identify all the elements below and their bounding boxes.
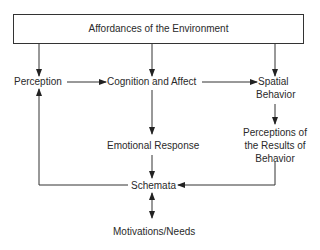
- node-spatial-line1: Spatial: [258, 76, 289, 88]
- arrow-schemata-perception: [39, 89, 128, 185]
- node-results-line2: the Results of: [240, 140, 310, 152]
- node-results-line3: Behavior: [240, 153, 310, 165]
- node-spatial-line2: Behavior: [256, 89, 295, 101]
- node-perception: Perception: [14, 76, 62, 88]
- node-emotional: Emotional Response: [107, 140, 199, 152]
- arrow-results-schemata: [178, 162, 275, 185]
- node-results-line1: Perceptions of: [240, 127, 310, 139]
- node-motivations: Motivations/Needs: [113, 226, 195, 238]
- affordances-box: Affordances of the Environment: [13, 14, 304, 44]
- affordances-label: Affordances of the Environment: [14, 15, 303, 43]
- node-schemata: Schemata: [131, 180, 176, 192]
- node-cognition: Cognition and Affect: [107, 76, 196, 88]
